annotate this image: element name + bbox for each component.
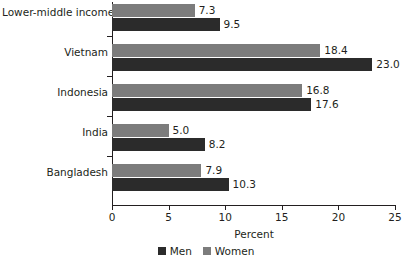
bar-women-india	[112, 124, 169, 137]
bar-men-vietnam	[112, 58, 372, 71]
legend-item-men[interactable]: Men	[158, 245, 192, 257]
bar-women-lower-middle-income	[112, 4, 195, 17]
x-axis-tick-label-0: 0	[97, 211, 127, 224]
bar-value-men-indonesia: 17.6	[315, 98, 338, 111]
x-axis-tick-0	[112, 205, 113, 210]
legend-swatch-women-icon	[203, 247, 211, 255]
x-axis-line	[112, 205, 396, 206]
bar-men-bangladesh	[112, 178, 229, 191]
x-axis-tick-label-15: 15	[267, 211, 297, 224]
x-axis-tick-5	[169, 205, 170, 210]
bar-value-women-bangladesh: 7.9	[205, 164, 222, 177]
x-axis-tick-label-5: 5	[154, 211, 184, 224]
bar-value-men-vietnam: 23.0	[376, 58, 399, 71]
bar-value-women-indonesia: 16.8	[306, 84, 329, 97]
x-axis-tick-label-25: 25	[380, 211, 410, 224]
bar-value-women-india: 5.0	[173, 124, 190, 137]
y-axis-label-bangladesh: Bangladesh	[2, 166, 108, 178]
legend-item-women[interactable]: Women	[203, 245, 255, 257]
bar-value-men-bangladesh: 10.3	[233, 178, 256, 191]
x-axis-tick-25	[395, 205, 396, 210]
legend-label-women: Women	[215, 245, 255, 257]
bar-men-india	[112, 138, 205, 151]
x-axis-tick-15	[282, 205, 283, 210]
x-axis-tick-label-10: 10	[210, 211, 240, 224]
legend-swatch-men-icon	[158, 247, 166, 255]
chart-legend: Men Women	[0, 245, 412, 257]
horizontal-bar-chart: Lower-middle income Vietnam Indonesia In…	[0, 0, 412, 261]
y-axis-category-labels: Lower-middle income Vietnam Indonesia In…	[0, 2, 108, 205]
x-axis-tick-label-20: 20	[323, 211, 353, 224]
x-axis-tick-10	[225, 205, 226, 210]
x-axis-title: Percent	[112, 228, 396, 240]
bar-value-men-india: 8.2	[209, 138, 226, 151]
y-axis-label-vietnam: Vietnam	[2, 46, 108, 58]
bar-women-indonesia	[112, 84, 302, 97]
y-axis-label-lower-middle-income: Lower-middle income	[2, 6, 108, 18]
bar-men-lower-middle-income	[112, 18, 220, 31]
bar-value-men-lower-middle-income: 9.5	[224, 18, 241, 31]
bar-women-vietnam	[112, 44, 320, 57]
plot-area: 7.3 9.5 18.4 23.0 16.8 17.6 5.0 8.2 7.9 …	[112, 2, 395, 205]
y-axis-label-india: India	[2, 126, 108, 138]
x-axis-tick-20	[338, 205, 339, 210]
bar-women-bangladesh	[112, 164, 201, 177]
bar-men-indonesia	[112, 98, 311, 111]
bar-value-women-vietnam: 18.4	[324, 44, 347, 57]
bar-value-women-lower-middle-income: 7.3	[199, 4, 216, 17]
y-axis-label-indonesia: Indonesia	[2, 86, 108, 98]
legend-label-men: Men	[170, 245, 192, 257]
